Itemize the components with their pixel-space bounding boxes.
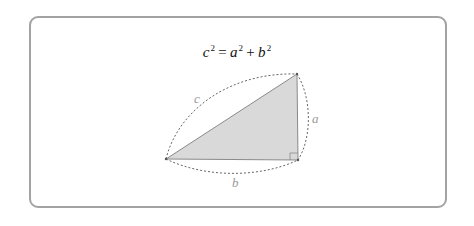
horizontal-leg-arc bbox=[166, 159, 298, 173]
triangle-shape bbox=[166, 74, 298, 160]
vertex-top bbox=[296, 73, 298, 75]
right-triangle-diagram: c a b bbox=[0, 0, 474, 226]
vertical-leg-arc bbox=[297, 74, 308, 160]
vertex-left bbox=[165, 158, 167, 160]
label-c: c bbox=[194, 91, 200, 106]
label-a: a bbox=[312, 111, 319, 126]
label-b: b bbox=[232, 175, 239, 190]
vertex-right bbox=[297, 159, 299, 161]
